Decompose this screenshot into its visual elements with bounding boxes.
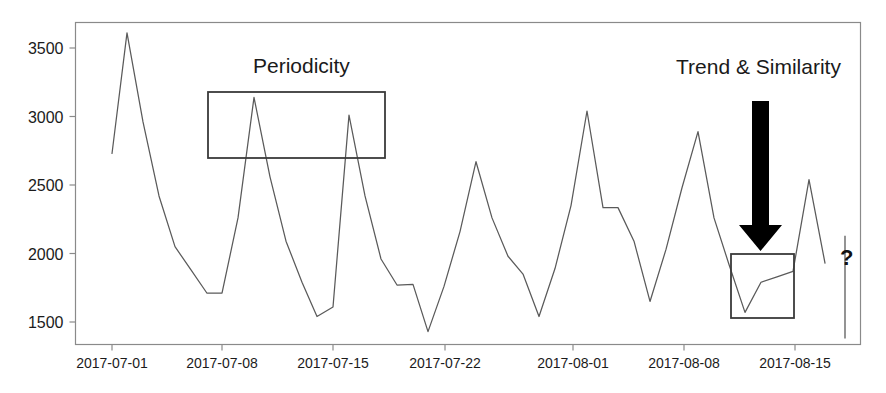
question-mark-annotation: ? [840,245,853,271]
x-tick-label: 2017-08-01 [537,355,609,371]
y-tick-label: 3500 [28,40,64,57]
trend-similarity-annotation-label: Trend & Similarity [676,55,841,79]
periodicity-highlight-box [208,92,385,158]
chart-figure: 15002000250030003500 2017-07-012017-07-0… [0,0,886,393]
trend-similarity-highlight-box [731,254,794,318]
y-axis-ticks: 15002000250030003500 [28,40,76,331]
y-tick-label: 2000 [28,246,64,263]
down-arrow-icon [739,101,782,251]
x-tick-label: 2017-08-15 [759,355,831,371]
y-tick-label: 2500 [28,177,64,194]
x-tick-label: 2017-07-22 [409,355,481,371]
x-tick-label: 2017-07-01 [76,355,148,371]
periodicity-annotation-label: Periodicity [253,54,350,78]
x-axis-ticks: 2017-07-012017-07-082017-07-152017-07-22… [76,345,831,371]
x-tick-label: 2017-08-08 [648,355,720,371]
y-tick-label: 3000 [28,109,64,126]
y-tick-label: 1500 [28,314,64,331]
x-tick-label: 2017-07-15 [297,355,369,371]
x-tick-label: 2017-07-08 [186,355,258,371]
